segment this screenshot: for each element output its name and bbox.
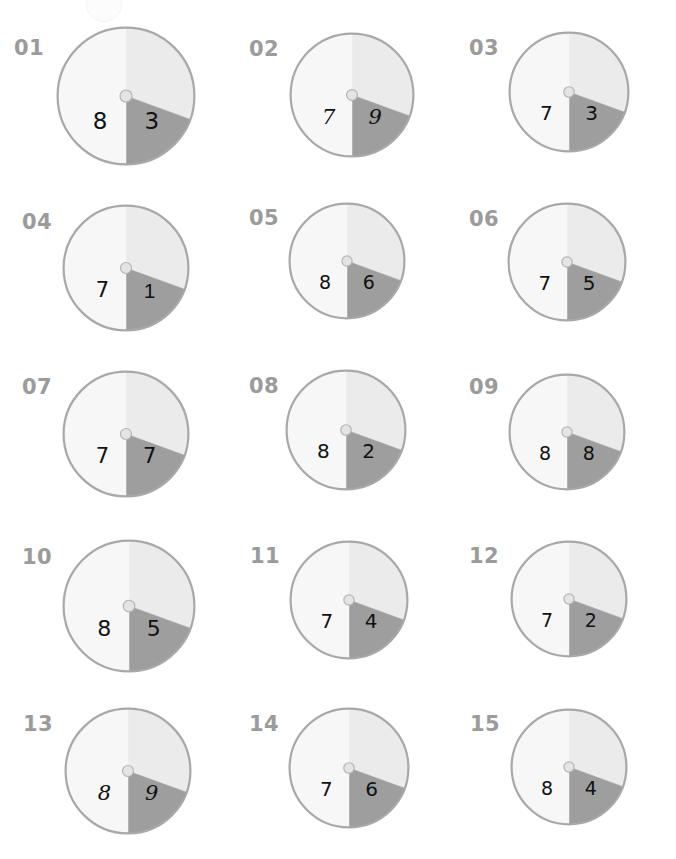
pie-chart-svg (56, 26, 196, 166)
wedge-value-right: 4 (585, 778, 597, 797)
chart-index-label: 10 (22, 547, 52, 568)
pie-chart-svg (289, 32, 415, 158)
wedge-value-right: 5 (147, 618, 161, 640)
wedge-value-left: 7 (320, 779, 333, 799)
pie-chart[interactable]: 74 (289, 540, 409, 660)
wedge-right-white[interactable] (291, 34, 352, 157)
pie-chart[interactable]: 85 (62, 539, 196, 673)
wedge-right-white[interactable] (290, 204, 347, 319)
pie-center-hub (120, 262, 131, 273)
wedge-value-right: 7 (143, 446, 156, 467)
pie-center-hub (564, 762, 574, 772)
chart-index-label: 13 (23, 714, 53, 735)
pie-center-hub (344, 595, 354, 605)
chart-index-label: 02 (249, 39, 279, 60)
wedge-value-right: 6 (365, 779, 378, 799)
chart-index-label: 09 (469, 377, 499, 398)
wedge-right-white[interactable] (66, 709, 128, 834)
chart-index-label: 11 (250, 546, 280, 567)
pie-chart-svg (510, 540, 628, 658)
wedge-right-white[interactable] (512, 710, 569, 825)
pie-chart-svg (64, 707, 192, 835)
wedge-value-left: 7 (322, 107, 335, 128)
wedge-value-right: 2 (362, 441, 375, 461)
wedge-value-left: 8 (319, 272, 331, 291)
chart-index-label: 08 (249, 376, 279, 397)
pie-chart-svg (62, 370, 190, 498)
wedge-right-white[interactable] (58, 28, 126, 165)
wedge-value-left: 7 (96, 280, 109, 301)
pie-center-hub (564, 594, 574, 604)
wedge-right-white[interactable] (512, 542, 569, 657)
pie-chart[interactable]: 86 (288, 202, 406, 320)
wedge-right-white[interactable] (509, 204, 567, 321)
chart-index-label: 05 (249, 208, 279, 229)
wedge-value-right: 5 (583, 273, 596, 293)
pie-center-hub (342, 256, 352, 266)
wedge-value-right: 9 (369, 107, 382, 128)
wedge-value-left: 8 (317, 441, 330, 461)
pie-chart[interactable]: 76 (288, 707, 410, 829)
wedge-value-right: 3 (145, 109, 160, 132)
wedge-right-white[interactable] (64, 541, 129, 672)
pie-center-hub (562, 257, 572, 267)
wedge-right-white[interactable] (510, 33, 569, 152)
wedge-value-right: 4 (365, 611, 378, 631)
pie-chart-svg (510, 708, 628, 826)
pie-chart[interactable]: 71 (62, 204, 190, 332)
pie-chart-svg (508, 31, 630, 153)
chart-index-label: 03 (469, 38, 499, 59)
wedge-value-right: 3 (585, 103, 598, 123)
wedge-value-left: 8 (97, 618, 111, 640)
chart-index-label: 07 (22, 377, 52, 398)
wedge-value-left: 8 (98, 783, 111, 804)
pie-chart-grid: 0183027903730471058606750777088209881085… (0, 0, 676, 859)
pie-chart-svg (285, 369, 407, 491)
wedge-value-right: 8 (583, 443, 595, 462)
wedge-right-white[interactable] (510, 375, 567, 490)
chart-index-label: 04 (22, 212, 52, 233)
pie-chart[interactable]: 82 (285, 369, 407, 491)
pie-center-hub (120, 428, 131, 439)
pie-chart-svg (62, 204, 190, 332)
wedge-value-left: 8 (93, 109, 108, 132)
wedge-right-white[interactable] (291, 542, 349, 659)
wedge-right-white[interactable] (64, 206, 126, 331)
chart-index-label: 06 (469, 209, 499, 230)
wedge-value-left: 7 (541, 610, 553, 629)
pie-chart[interactable]: 89 (64, 707, 192, 835)
decorative-artifact-circle (86, 0, 122, 22)
wedge-value-left: 7 (540, 103, 553, 123)
pie-chart-svg (288, 202, 406, 320)
pie-chart-svg (288, 707, 410, 829)
pie-chart-svg (507, 202, 627, 322)
wedge-value-left: 8 (539, 443, 551, 462)
wedge-right-white[interactable] (64, 372, 126, 497)
pie-chart[interactable]: 77 (62, 370, 190, 498)
pie-center-hub (120, 90, 132, 102)
pie-chart[interactable]: 79 (289, 32, 415, 158)
wedge-value-left: 7 (538, 273, 551, 293)
wedge-value-right: 1 (144, 280, 156, 301)
wedge-value-left: 7 (320, 611, 333, 631)
wedge-right-white[interactable] (290, 709, 349, 828)
wedge-value-right: 6 (363, 272, 375, 291)
wedge-right-white[interactable] (287, 371, 346, 490)
pie-chart[interactable]: 84 (510, 708, 628, 826)
pie-chart[interactable]: 72 (510, 540, 628, 658)
pie-chart[interactable]: 83 (56, 26, 196, 166)
pie-center-hub (564, 87, 574, 97)
wedge-value-left: 8 (541, 778, 553, 797)
pie-chart[interactable]: 88 (508, 373, 626, 491)
pie-chart-svg (289, 540, 409, 660)
chart-index-label: 15 (470, 714, 500, 735)
pie-chart[interactable]: 73 (508, 31, 630, 153)
chart-index-label: 01 (14, 38, 44, 59)
chart-index-label: 12 (469, 546, 499, 567)
chart-index-label: 14 (249, 714, 279, 735)
pie-center-hub (123, 600, 135, 612)
wedge-value-right: 2 (585, 610, 597, 629)
pie-chart-svg (508, 373, 626, 491)
pie-chart[interactable]: 75 (507, 202, 627, 322)
pie-center-hub (562, 427, 572, 437)
